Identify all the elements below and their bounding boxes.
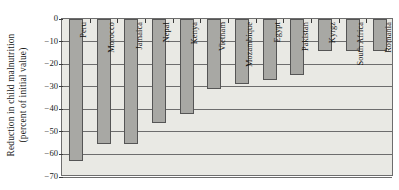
bar-peru[interactable] (69, 19, 83, 161)
y-axis-title: Reduction in child malnutrition (percent… (0, 0, 34, 190)
bar-label-south-africa: South Africa (356, 22, 365, 66)
x-axis-tick-mark (228, 19, 229, 23)
y-axis-tick-label: −30 (45, 81, 58, 91)
chart-figure: Reduction in child malnutrition (percent… (0, 0, 399, 190)
x-axis-tick-mark (311, 19, 312, 23)
x-axis-tick-mark (173, 19, 174, 23)
y-axis-tick-mark (59, 19, 63, 20)
bar-label-vietnam: Vietnam (218, 22, 227, 51)
y-axis-title-line2: (percent of initial value) (17, 34, 29, 157)
y-axis-title-line1: Reduction in child malnutrition (6, 34, 16, 157)
x-axis-tick-mark (117, 19, 118, 23)
y-axis-tick-label: −70 (45, 171, 58, 181)
bar-label-egypt: Egypt (273, 22, 282, 42)
y-axis-tick-labels: 0−10−20−30−40−50−60−70 (32, 0, 58, 190)
gridline (62, 109, 392, 110)
plot-area: PeruMoroccoJamaicaNepalKenyaVietnamMozam… (61, 18, 393, 176)
y-axis-tick-mark (59, 177, 63, 178)
bar-label-morocco: Morocco (107, 22, 116, 53)
x-axis-tick-mark (90, 19, 91, 23)
y-axis-tick-mark (59, 154, 63, 155)
y-axis-tick-label: −10 (45, 36, 58, 46)
y-axis-tick-label: 0 (54, 13, 58, 23)
y-axis-tick-mark (59, 109, 63, 110)
gridline (62, 131, 392, 132)
bar-label-mozambique: Mozambique (245, 22, 254, 67)
bar-label-nepal: Nepal (162, 22, 171, 42)
x-axis-tick-mark (283, 19, 284, 23)
bar-label-romania: Romania (384, 22, 393, 53)
gridline (62, 177, 392, 178)
y-axis-tick-mark (59, 41, 63, 42)
bar-label-kenya: Kenya (190, 22, 199, 44)
x-axis-tick-mark (145, 19, 146, 23)
gridline (62, 86, 392, 87)
bar-label-peru: Peru (79, 22, 88, 38)
y-axis-tick-mark (59, 86, 63, 87)
bar-label-pakistan: Pakistan (301, 22, 310, 51)
x-axis-tick-mark (256, 19, 257, 23)
x-axis-tick-mark (339, 19, 340, 23)
y-axis-tick-mark (59, 64, 63, 65)
x-axis-tick-mark (366, 19, 367, 23)
y-axis-tick-mark (59, 131, 63, 132)
y-axis-tick-label: −20 (45, 58, 58, 68)
gridline (62, 64, 392, 65)
y-axis-tick-label: −50 (45, 126, 58, 136)
y-axis-title-text: Reduction in child malnutrition (percent… (6, 34, 29, 157)
y-axis-tick-label: −60 (45, 148, 58, 158)
bar-label-kyrgz: Kyrgz (328, 22, 337, 43)
bar-label-jamaica: Jamaica (135, 22, 144, 50)
x-axis-tick-mark (200, 19, 201, 23)
gridline (62, 154, 392, 155)
y-axis-tick-label: −40 (45, 103, 58, 113)
